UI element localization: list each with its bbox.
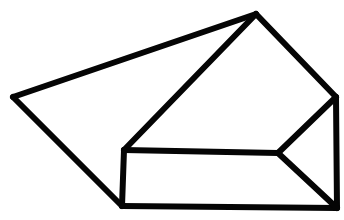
geometric-figure: 3D wedge prism line drawing	[0, 0, 344, 220]
edge-rect-top-horizontal	[124, 150, 278, 153]
edge-rect-left-vertical	[122, 150, 124, 206]
edge-right-vertical	[336, 97, 337, 208]
edge-bottom-horizontal	[122, 206, 337, 208]
